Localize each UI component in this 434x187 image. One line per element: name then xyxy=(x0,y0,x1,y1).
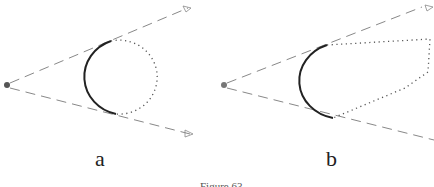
figure-caption: Figure 63 xyxy=(200,180,242,187)
viewpoint-dot xyxy=(4,82,10,88)
upper-ray xyxy=(10,8,188,83)
upper-arrowhead-icon xyxy=(183,6,191,12)
visible-arc xyxy=(84,41,116,114)
lower-ray xyxy=(227,88,434,140)
hidden-outline xyxy=(111,40,157,114)
upper-arrowhead-icon xyxy=(425,5,433,11)
panel-a-label: a xyxy=(95,146,105,172)
visible-arc xyxy=(299,45,333,118)
figure-diagram xyxy=(0,0,434,187)
lower-ray xyxy=(10,88,190,134)
panel-b-diagram xyxy=(221,5,434,140)
panel-b-label: b xyxy=(326,146,337,172)
panel-a-diagram xyxy=(4,6,193,137)
viewpoint-dot xyxy=(221,82,227,88)
hidden-outline xyxy=(327,39,430,118)
